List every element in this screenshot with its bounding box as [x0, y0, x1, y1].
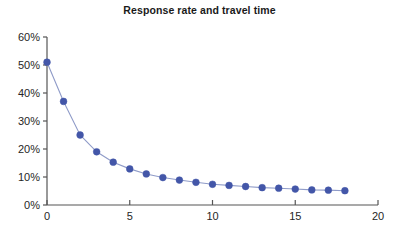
data-point-marker: [259, 184, 266, 191]
x-axis-tick-label: 5: [127, 210, 133, 222]
data-point-marker: [143, 171, 150, 178]
data-point-marker: [159, 174, 166, 181]
data-point-marker: [193, 179, 200, 186]
data-point-marker: [44, 59, 51, 66]
x-axis-tick-labels: 05101520: [44, 210, 384, 222]
data-point-marker: [209, 181, 216, 188]
data-point-marker: [60, 98, 67, 105]
x-axis-tick-label: 10: [206, 210, 218, 222]
data-point-marker: [325, 187, 332, 194]
y-axis-tick-label: 0%: [24, 199, 40, 211]
data-point-marker: [292, 186, 299, 193]
chart-figure: Response rate and travel time 0%10%20%30…: [0, 0, 399, 242]
x-axis-tick-label: 15: [289, 210, 301, 222]
series-markers: [44, 59, 349, 194]
y-axis-group: 0%10%20%30%40%50%60%: [18, 31, 47, 211]
y-axis-tick-label: 60%: [18, 31, 40, 43]
data-point-marker: [226, 182, 233, 189]
data-point-marker: [176, 177, 183, 184]
y-axis-tick-label: 50%: [18, 59, 40, 71]
data-point-marker: [242, 183, 249, 190]
data-point-marker: [110, 159, 117, 166]
x-axis-group: 05101520: [44, 200, 384, 222]
data-point-marker: [93, 148, 100, 155]
y-axis-tick-label: 40%: [18, 87, 40, 99]
y-axis-tick-label: 30%: [18, 115, 40, 127]
x-axis-tick-label: 0: [44, 210, 50, 222]
x-axis-ticks: [47, 200, 378, 205]
x-axis-tick-label: 20: [372, 210, 384, 222]
data-series-group: [44, 59, 349, 194]
y-axis-tick-labels: 0%10%20%30%40%50%60%: [18, 31, 40, 211]
y-axis-tick-label: 20%: [18, 143, 40, 155]
data-point-marker: [126, 165, 133, 172]
data-point-marker: [342, 187, 349, 194]
data-point-marker: [77, 132, 84, 139]
chart-plot-area: 0%10%20%30%40%50%60% 05101520: [0, 0, 399, 242]
series-line: [47, 62, 345, 191]
data-point-marker: [308, 186, 315, 193]
y-axis-tick-label: 10%: [18, 171, 40, 183]
data-point-marker: [275, 185, 282, 192]
